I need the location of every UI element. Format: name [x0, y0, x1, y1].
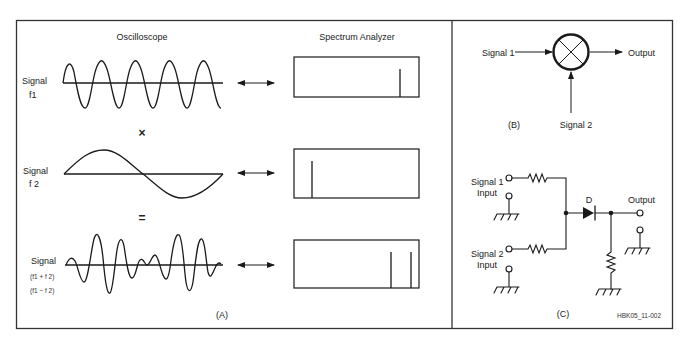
signal1-resistor [512, 174, 566, 213]
circuit-output-label: Output [628, 195, 656, 205]
oscilloscope-header: Oscilloscope [116, 32, 167, 42]
row2-spectrum-display [294, 149, 419, 198]
output-terminal [637, 210, 643, 216]
output-ground-terminal [637, 227, 643, 233]
mixer-output-label: Output [628, 48, 656, 58]
spectrum-analyzer-header: Spectrum Analyzer [319, 32, 395, 42]
signal2-terminal [506, 246, 512, 252]
circuit-signal2-label: Signal 2 [471, 249, 504, 259]
equals-operator: = [138, 211, 145, 225]
row2-freq-label: f 2 [29, 179, 39, 189]
mixer-signal1-label: Signal 1 [482, 48, 515, 58]
load-resistor [607, 213, 615, 289]
signal1-ground-terminal [506, 193, 512, 199]
signal2-ground-terminal [506, 266, 512, 272]
signal2-resistor [512, 213, 566, 253]
row2-signal-label: Signal [23, 166, 48, 176]
signal1-ground-icon [494, 199, 519, 220]
mixer-signal2-label: Signal 2 [560, 120, 593, 130]
panel-b-label: (B) [508, 120, 520, 130]
row1-signal-label: Signal [22, 76, 47, 86]
circuit-signal2-input-label: Input [477, 260, 498, 270]
circuit-signal1-label: Signal 1 [471, 177, 504, 187]
row3-sum-freq-label: (f1 + f 2) [30, 273, 54, 281]
multiply-operator: × [138, 126, 145, 140]
load-ground-icon [596, 289, 621, 295]
waveform-f1 [63, 61, 221, 108]
signal2-ground-icon [494, 272, 519, 293]
panel-c: Signal 1 Input Signal 2 Input D Output (… [471, 174, 661, 320]
row1-freq-label: f1 [29, 90, 37, 100]
diode-label: D [586, 195, 593, 205]
circuit-signal1-input-label: Input [477, 188, 498, 198]
figure-id: HBK05_11-002 [617, 312, 661, 320]
mixer-diagram: Oscilloscope Spectrum Analyzer Signal f1… [0, 0, 687, 339]
panel-b: Signal 1 Output Signal 2 (B) [482, 35, 656, 131]
row3-spectrum-display [294, 240, 419, 288]
waveform-mixed [66, 234, 221, 293]
output-ground-icon [625, 233, 650, 254]
panel-a-label: (A) [216, 310, 228, 320]
row3-signal-label: Signal [31, 256, 56, 266]
panel-a: Oscilloscope Spectrum Analyzer Signal f1… [22, 32, 419, 320]
row3-diff-freq-label: (f1 − f 2) [30, 287, 54, 295]
signal1-terminal [506, 175, 512, 181]
diode-icon [583, 207, 594, 219]
panel-c-label: (C) [557, 309, 570, 319]
